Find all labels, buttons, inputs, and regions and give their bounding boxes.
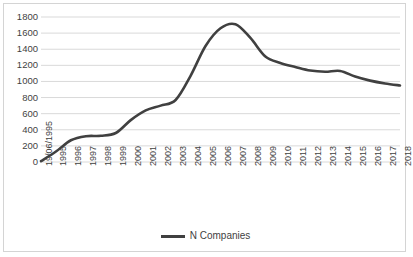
- x-tick-label: 2013: [329, 146, 338, 166]
- x-tick-label: 2016: [374, 146, 383, 166]
- x-tick-label: 2001: [149, 146, 158, 166]
- x-tick-label: 2006: [224, 146, 233, 166]
- x-tick-label: 2009: [269, 146, 278, 166]
- x-tick-label: 1996: [74, 146, 83, 166]
- plot-area: 180016001400120010008006004002000 19/06/…: [4, 4, 407, 253]
- x-tick-label: 2012: [314, 146, 323, 166]
- x-tick-label: 2015: [359, 146, 368, 166]
- x-tick-label: 1997: [89, 146, 98, 166]
- x-axis: 19/06/1995199519961997199819992000200120…: [4, 4, 407, 253]
- x-tick-label: 2000: [134, 146, 143, 166]
- x-tick-label: 2010: [284, 146, 293, 166]
- x-tick-label: 2004: [194, 146, 203, 166]
- x-tick-label: 1995: [59, 146, 68, 166]
- x-tick-label: 2017: [389, 146, 398, 166]
- x-tick-label: 19/06/1995: [45, 121, 54, 166]
- legend-label-n-companies: N Companies: [190, 231, 251, 241]
- x-tick-label: 2007: [239, 146, 248, 166]
- x-tick-label: 2018: [404, 146, 413, 166]
- x-tick-label: 2002: [164, 146, 173, 166]
- chart-container: 180016001400120010008006004002000 19/06/…: [3, 3, 406, 252]
- x-tick-label: 2008: [254, 146, 263, 166]
- x-tick-label: 2003: [179, 146, 188, 166]
- chart-legend: N Companies: [4, 231, 407, 241]
- x-tick-label: 1998: [104, 146, 113, 166]
- x-tick-label: 1999: [119, 146, 128, 166]
- x-tick-label: 2014: [344, 146, 353, 166]
- x-tick-label: 2011: [299, 147, 308, 166]
- x-tick-label: 2005: [209, 146, 218, 166]
- legend-line-swatch: [161, 235, 185, 238]
